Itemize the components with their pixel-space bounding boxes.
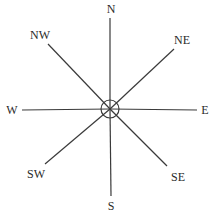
- label-se: SE: [171, 171, 185, 183]
- ray-w: [22, 109, 110, 110]
- ray-s: [110, 109, 111, 196]
- ray-se: [110, 109, 167, 166]
- label-sw: SW: [27, 168, 45, 180]
- ray-ne: [110, 49, 174, 109]
- label-nw: NW: [30, 29, 50, 41]
- label-ne: NE: [174, 34, 190, 46]
- ray-sw: [45, 109, 110, 164]
- label-e: E: [201, 104, 208, 116]
- label-w: W: [6, 104, 17, 116]
- ray-e: [110, 109, 197, 110]
- ray-nw: [48, 44, 110, 109]
- label-s: S: [108, 200, 115, 212]
- label-n: N: [107, 3, 116, 15]
